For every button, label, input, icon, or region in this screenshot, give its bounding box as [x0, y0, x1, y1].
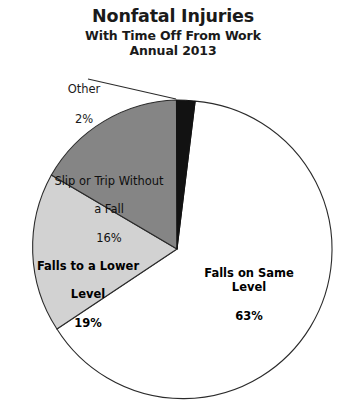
slice-label-other: Other 2%: [48, 68, 120, 140]
slice-label-falls-on-same-level-name: Falls on Same Level: [186, 266, 312, 294]
slice-label-falls-on-same-level-percent: 63%: [186, 309, 312, 323]
slice-label-falls-on-same-level: Falls on Same Level 63%: [186, 252, 312, 337]
slice-label-slip-or-trip-percent: 16%: [48, 231, 170, 245]
slice-label-falls-to-lower-level-name-line1: Falls to a Lower: [22, 259, 154, 273]
slice-label-falls-to-lower-level-percent: 19%: [22, 316, 154, 330]
slice-label-other-name: Other: [48, 82, 120, 96]
slice-label-falls-to-lower-level: Falls to a Lower Level 19%: [22, 245, 154, 344]
slice-label-other-percent: 2%: [48, 112, 120, 126]
slice-label-slip-or-trip-name-line2: a Fall: [48, 202, 170, 216]
pie-chart-figure: Nonfatal Injuries With Time Off From Wor…: [0, 0, 346, 420]
slice-label-slip-or-trip-name-line1: Slip or Trip Without: [48, 174, 170, 188]
slice-label-falls-to-lower-level-name-line2: Level: [22, 287, 154, 301]
